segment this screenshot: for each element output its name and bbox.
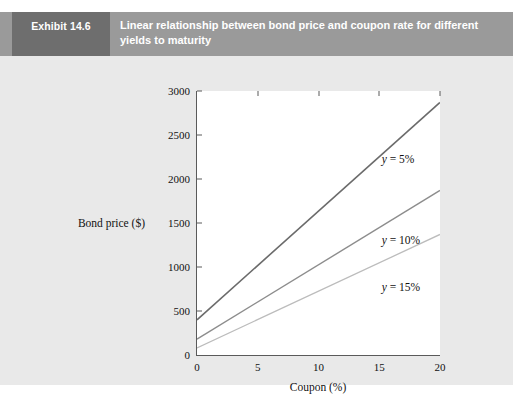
- y-tick-mark: [197, 267, 202, 268]
- exhibit-title: Linear relationship between bond price a…: [120, 18, 498, 48]
- x-tick-label: 0: [194, 355, 200, 373]
- y-tick-label: 1000: [144, 261, 197, 273]
- y-tick-mark: [197, 223, 202, 224]
- series-label-1: y = 10%: [382, 234, 420, 246]
- y-tick-mark: [197, 91, 202, 92]
- x-tick-label: 15: [374, 355, 385, 373]
- series-label-0: y = 5%: [382, 153, 415, 165]
- y-tick-label: 3000: [144, 85, 197, 97]
- figure-container: Exhibit 14.6 Linear relationship between…: [0, 12, 513, 385]
- series-label-2: y = 15%: [382, 281, 420, 293]
- y-tick-label: 2000: [144, 173, 197, 185]
- y-axis-title: Bond price ($): [78, 217, 145, 229]
- y-tick-mark: [197, 135, 202, 136]
- x-tick-label: 10: [313, 355, 324, 373]
- y-tick-label: 1500: [144, 217, 197, 229]
- chart-region: 050010001500200025003000 05101520 Bond p…: [0, 56, 513, 385]
- series-line-1: [197, 190, 440, 339]
- exhibit-tag-label: Exhibit 14.6: [12, 20, 110, 32]
- x-tick-mark: [257, 91, 258, 96]
- x-tick-label: 20: [435, 355, 446, 373]
- chart-lines: [197, 91, 440, 355]
- x-tick-mark: [379, 91, 380, 96]
- x-tick-mark: [318, 91, 319, 96]
- y-tick-mark: [197, 311, 202, 312]
- y-tick-label: 2500: [144, 129, 197, 141]
- plot-area: 050010001500200025003000 05101520 Bond p…: [196, 91, 440, 356]
- y-tick-mark: [197, 179, 202, 180]
- y-tick-label: 500: [144, 305, 197, 317]
- y-tick-label: 0: [144, 349, 197, 361]
- exhibit-header: Exhibit 14.6 Linear relationship between…: [0, 12, 513, 56]
- x-tick-label: 5: [255, 355, 261, 373]
- exhibit-tag-block: Exhibit 14.6: [12, 12, 110, 56]
- x-axis-title: Coupon (%): [196, 381, 440, 393]
- x-tick-mark: [440, 91, 441, 96]
